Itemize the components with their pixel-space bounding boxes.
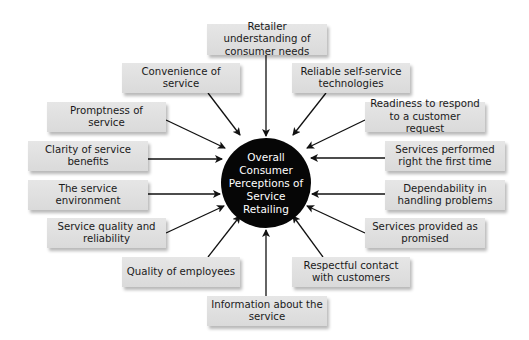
arrow-reliable-self-service — [293, 93, 326, 135]
factor-quality-employees: Quality of employees — [122, 257, 240, 287]
factor-retailer-understanding: Retailer understanding of consumer needs — [207, 24, 327, 55]
arrow-quality-employees — [208, 216, 240, 257]
factor-provided-as-promised: Services provided as promised — [365, 218, 485, 248]
factor-quality-reliability: Service quality and reliability — [47, 218, 166, 248]
factor-information: Information about the service — [207, 296, 327, 326]
arrow-provided-as-promised — [307, 206, 365, 233]
arrow-convenience — [208, 93, 240, 135]
arrow-respectful-contact — [293, 216, 323, 257]
factor-readiness: Readiness to respond to a customer reque… — [365, 102, 485, 132]
factor-respectful-contact: Respectful contact with customers — [292, 257, 410, 287]
factor-convenience: Convenience of service — [122, 63, 240, 93]
arrow-quality-reliability — [166, 206, 224, 233]
arrow-promptness — [166, 120, 225, 148]
central-node: Overall Consumer Perceptions of Service … — [221, 138, 311, 228]
factor-reliable-self-service: Reliable self-service technologies — [292, 63, 410, 93]
factor-environment: The service environment — [28, 180, 148, 210]
factor-promptness: Promptness of service — [47, 102, 166, 132]
factor-dependability: Dependability in handling problems — [385, 180, 505, 210]
central-node-label: Overall Consumer Perceptions of Service … — [227, 151, 305, 216]
factor-clarity: Clarity of service benefits — [28, 141, 148, 171]
arrow-readiness — [307, 120, 365, 148]
factor-performed-right: Services performed right the first time — [385, 141, 505, 171]
